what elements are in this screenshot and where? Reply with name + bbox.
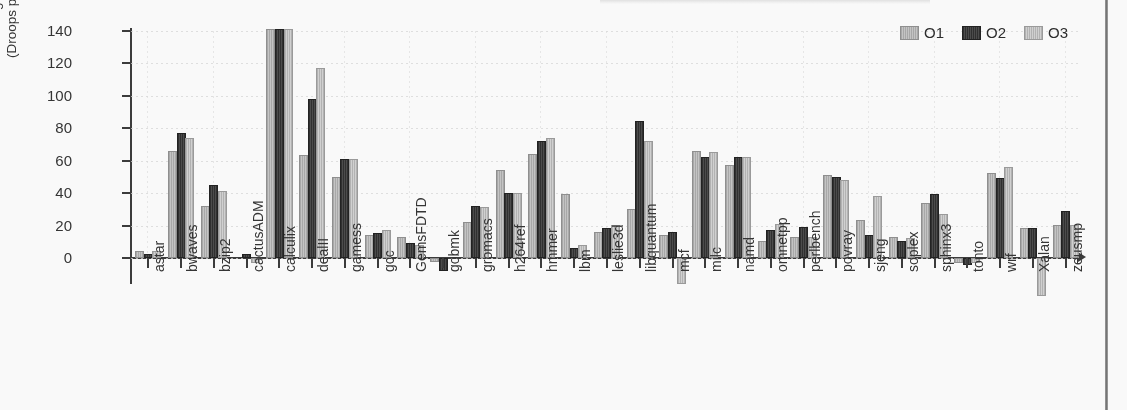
x-axis-tick-label: milc	[709, 247, 723, 272]
y-axis-tick	[122, 225, 131, 227]
x-axis-tick-label: bwaves	[185, 225, 199, 272]
legend-label: O2	[986, 24, 1006, 41]
x-axis-tick-label: soplex	[906, 232, 920, 272]
bar-o3[interactable]	[316, 68, 325, 258]
legend-label: O3	[1048, 24, 1068, 41]
y-axis-tick	[122, 257, 131, 259]
x-axis-tick	[573, 258, 575, 268]
x-axis-tick	[606, 258, 608, 268]
x-axis-tick	[1032, 258, 1034, 268]
x-axis-tick	[901, 258, 903, 268]
x-axis-tick-label: namd	[742, 237, 756, 272]
legend-item-o3[interactable]: O3	[1024, 24, 1068, 41]
x-axis-tick-label: gromacs	[480, 218, 494, 272]
bar-group[interactable]	[987, 31, 1011, 258]
x-axis-tick-label: zeusmp	[1070, 223, 1084, 272]
y-axis-tick	[122, 62, 131, 64]
bar-group[interactable]	[266, 31, 290, 258]
x-axis-tick-label: lbm	[578, 249, 592, 272]
y-axis-tick-label: 60	[12, 153, 72, 168]
x-axis-tick-label: GemsFDTD	[414, 197, 428, 272]
x-axis-tick-label: sjeng	[873, 239, 887, 272]
x-axis-tick	[770, 258, 772, 268]
chart-legend: O1O2O3	[900, 24, 1080, 41]
x-axis-tick-label: perlbench	[808, 211, 822, 273]
x-axis-tick-label: calculix	[283, 226, 297, 272]
bar-group[interactable]	[528, 31, 552, 258]
x-axis-tick	[1065, 258, 1067, 268]
clipped-title-artifact	[600, 0, 930, 4]
y-axis-tick-label: 100	[12, 88, 72, 103]
x-axis-tick	[246, 258, 248, 268]
x-axis-tick-label: mcf	[677, 249, 691, 272]
bar-group[interactable]	[856, 31, 880, 258]
bar-group[interactable]	[299, 31, 323, 258]
legend-swatch-o1	[900, 26, 919, 40]
x-axis-tick	[639, 258, 641, 268]
y-axis-tick-label: 140	[12, 23, 72, 38]
y-axis-tick-label: 80	[12, 120, 72, 135]
scan-page-border	[1105, 0, 1108, 410]
x-axis-tick-label: gobmk	[447, 230, 461, 272]
x-axis-tick-label: Xalan	[1037, 236, 1051, 272]
bar-group[interactable]	[201, 31, 225, 258]
legend-item-o1[interactable]: O1	[900, 24, 944, 41]
x-axis-tick	[147, 258, 149, 268]
x-axis-tick-label: sphinx3	[939, 224, 953, 272]
x-axis-tick-label: cactusADM	[251, 200, 265, 272]
x-axis-tick-label: libquantum	[644, 204, 658, 273]
x-axis-tick	[704, 258, 706, 268]
x-axis-tick-label: h264ref	[513, 225, 527, 272]
y-axis-tick-label: 20	[12, 218, 72, 233]
x-axis-tick-label: leslie3d	[611, 225, 625, 272]
x-axis-tick-label: tonto	[971, 241, 985, 272]
x-axis-tick-label: gcc	[382, 250, 396, 272]
y-axis-tick-label: 0	[12, 250, 72, 265]
x-axis-tick-label: dealII	[316, 238, 330, 272]
y-axis-tick-label: 40	[12, 185, 72, 200]
x-axis-tick	[737, 258, 739, 268]
x-axis-tick	[442, 258, 444, 268]
x-axis-tick	[966, 258, 968, 268]
y-axis-tick	[122, 192, 131, 194]
x-axis-tick	[803, 258, 805, 268]
y-axis-tick	[122, 127, 131, 129]
y-axis-tick	[122, 160, 131, 162]
bar-o3[interactable]	[284, 29, 293, 258]
plot-area-negative: astarbwavesbzip2cactusADMcalculixdealIIg…	[131, 258, 1081, 284]
x-axis-tick	[311, 258, 313, 268]
legend-item-o2[interactable]: O2	[962, 24, 1006, 41]
x-axis-tick	[835, 258, 837, 268]
y-axis-tick-label: 120	[12, 55, 72, 70]
x-axis-tick	[934, 258, 936, 268]
bar-group[interactable]	[725, 31, 749, 258]
x-axis-tick	[377, 258, 379, 268]
y-axis-title-line1: % Change from O0	[0, 0, 3, 58]
bar-group[interactable]	[692, 31, 716, 258]
bar-group[interactable]	[430, 31, 454, 258]
x-axis-tick-label: bzip2	[218, 239, 232, 272]
y-axis-tick	[122, 95, 131, 97]
bar-group[interactable]	[365, 31, 389, 258]
x-axis-tick-label: povray	[840, 230, 854, 272]
bar-group[interactable]	[954, 31, 978, 258]
x-axis-tick-label: hmmer	[545, 228, 559, 272]
bar-group[interactable]	[135, 31, 159, 258]
bar-group[interactable]	[823, 31, 847, 258]
x-axis-tick	[409, 258, 411, 268]
x-axis-tick-label: wrf	[1004, 253, 1018, 272]
x-axis-tick	[508, 258, 510, 268]
y-axis-tick	[122, 30, 131, 32]
x-axis-tick	[475, 258, 477, 268]
x-axis-tick-label: omnetpp	[775, 218, 789, 272]
x-axis-tick	[344, 258, 346, 268]
bar-o3[interactable]	[1004, 167, 1013, 258]
bar-group[interactable]	[1020, 31, 1044, 258]
bar-group[interactable]	[659, 31, 683, 258]
legend-swatch-o3	[1024, 26, 1043, 40]
bar-o3[interactable]	[709, 152, 718, 258]
x-axis-tick	[278, 258, 280, 268]
bar-group[interactable]	[561, 31, 585, 258]
bar-group[interactable]	[889, 31, 913, 258]
x-axis-tick-label: gamess	[349, 223, 363, 272]
